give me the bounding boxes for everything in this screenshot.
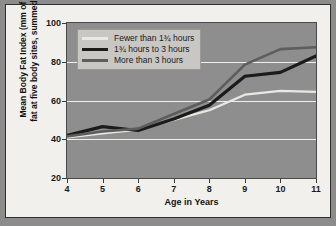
line-chart: Mean Body Fat Index (mm of fat at five b… (6, 5, 330, 217)
y-tick-label: 60 (51, 96, 61, 105)
x-tick-mark (67, 179, 68, 183)
x-tick-label: 4 (64, 185, 69, 194)
x-tick-mark (103, 179, 104, 183)
figure-card: Mean Body Fat Index (mm of fat at five b… (5, 4, 331, 218)
y-axis-ticklabels: 20406080100 (32, 22, 64, 179)
legend-label: 1¾ hours to 3 hours (114, 45, 190, 54)
y-tick-label: 100 (46, 19, 61, 28)
x-tick-label: 6 (136, 185, 141, 194)
y-tick-label: 20 (51, 174, 61, 183)
y-tick-label: 40 (51, 135, 61, 144)
legend-item: 1¾ hours to 3 hours (82, 44, 194, 55)
x-tick-mark (245, 179, 246, 183)
x-tick-label: 5 (100, 185, 105, 194)
legend-swatch (82, 48, 108, 51)
x-axis-title: Age in Years (66, 197, 317, 207)
legend-label: Fewer than 1¾ hours (114, 34, 194, 43)
y-axis-title-line-1: Mean Body Fat Index (mm of (18, 0, 29, 135)
legend: Fewer than 1¾ hours1¾ hours to 3 hoursMo… (77, 29, 201, 70)
x-tick-label: 8 (207, 185, 212, 194)
legend-label: More than 3 hours (114, 56, 183, 65)
x-tick-mark (174, 179, 175, 183)
x-tick-mark (316, 179, 317, 183)
legend-item: Fewer than 1¾ hours (82, 33, 194, 44)
plot-area: Fewer than 1¾ hours1¾ hours to 3 hoursMo… (66, 22, 317, 179)
x-axis-ticklabels: 4567891011 (66, 181, 317, 195)
x-tick-label: 10 (275, 185, 285, 194)
x-tick-mark (138, 179, 139, 183)
x-tick-label: 7 (171, 185, 176, 194)
legend-swatch (82, 37, 108, 40)
x-tick-label: 9 (242, 185, 247, 194)
legend-swatch (82, 59, 108, 62)
x-tick-mark (280, 179, 281, 183)
x-tick-mark (209, 179, 210, 183)
x-tick-label: 11 (311, 185, 321, 194)
legend-item: More than 3 hours (82, 55, 194, 66)
y-tick-label: 80 (51, 57, 61, 66)
